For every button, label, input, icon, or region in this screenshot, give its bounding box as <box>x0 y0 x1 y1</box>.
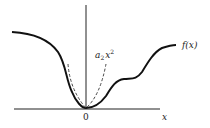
parabola-label: a2x2 <box>95 48 114 61</box>
function-label: f(x) <box>181 40 198 50</box>
function-curve <box>12 32 176 108</box>
origin-label: 0 <box>83 112 89 122</box>
function-diagram: a2x2 f(x) 0 x <box>0 0 210 128</box>
x-axis-label: x <box>162 112 167 122</box>
